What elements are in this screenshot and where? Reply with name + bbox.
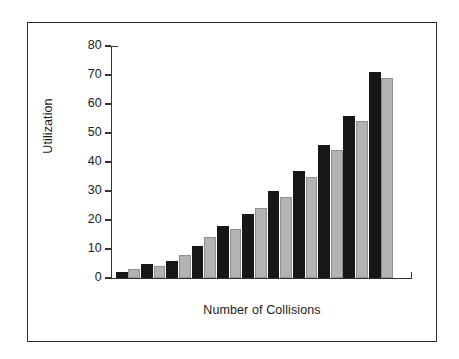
bar xyxy=(268,191,280,278)
bar xyxy=(154,266,166,278)
bar xyxy=(242,214,254,278)
y-axis-tick xyxy=(105,277,111,278)
bar xyxy=(381,78,393,278)
bar xyxy=(331,150,343,278)
bar xyxy=(166,261,178,278)
bar xyxy=(192,246,204,278)
y-axis-tick-label: 80 xyxy=(62,39,102,52)
bar-series xyxy=(112,46,408,278)
bar xyxy=(280,197,292,278)
bar xyxy=(369,72,381,278)
bar xyxy=(204,237,216,278)
y-axis-tick xyxy=(105,103,111,104)
bar xyxy=(217,226,229,278)
y-axis-tick xyxy=(105,219,111,220)
bar xyxy=(116,272,128,278)
y-axis-tick-label: 10 xyxy=(62,242,102,255)
y-axis-tick-label: 40 xyxy=(62,155,102,168)
figure-frame: 01020304050607080 Utilization Number of … xyxy=(27,22,437,342)
y-axis-title: Utilization xyxy=(41,61,55,191)
bar xyxy=(343,116,355,278)
y-axis-tick xyxy=(105,161,111,162)
y-axis-tick-label: 50 xyxy=(62,126,102,139)
x-axis-end-cap xyxy=(411,272,412,279)
x-axis-line xyxy=(111,278,412,279)
bar xyxy=(179,255,191,278)
bar xyxy=(306,177,318,279)
bar-chart: 01020304050607080 Utilization Number of … xyxy=(28,23,438,343)
y-axis-tick xyxy=(105,248,111,249)
bar xyxy=(128,269,140,278)
bar xyxy=(230,229,242,278)
bar xyxy=(356,121,368,278)
bar xyxy=(318,145,330,278)
bar xyxy=(293,171,305,278)
y-axis-tick xyxy=(105,132,111,133)
y-axis-tick-label: 30 xyxy=(62,184,102,197)
y-axis-tick-label: 60 xyxy=(62,97,102,110)
y-axis-tick-label: 20 xyxy=(62,213,102,226)
y-axis-tick-label: 70 xyxy=(62,68,102,81)
y-axis-tick xyxy=(105,74,111,75)
bar xyxy=(255,208,267,278)
bar xyxy=(141,264,153,279)
y-axis-tick xyxy=(105,190,111,191)
y-axis-tick-label: 0 xyxy=(62,271,102,284)
x-axis-title: Number of Collisions xyxy=(112,303,412,317)
y-axis-tick xyxy=(105,45,111,46)
